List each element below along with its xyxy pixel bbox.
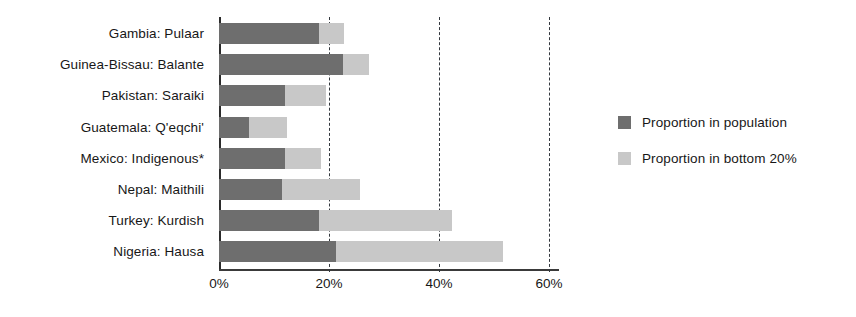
stacked-bar — [219, 179, 360, 200]
legend-label: Proportion in bottom 20% — [642, 151, 797, 166]
stacked-bar — [219, 148, 321, 169]
bar-segment-bottom20 — [343, 54, 369, 75]
x-tick-label: 40% — [425, 276, 452, 291]
x-tick-label: 20% — [315, 276, 342, 291]
bar-segment-population — [219, 23, 319, 44]
bar-segment-population — [219, 241, 336, 262]
stacked-bar — [219, 210, 452, 231]
bar-segment-population — [219, 85, 285, 106]
bar-segment-bottom20 — [336, 241, 503, 262]
chart-legend: Proportion in populationProportion in bo… — [618, 104, 848, 176]
stacked-bar-chart: Gambia: PulaarGuinea-Bissau: BalantePaki… — [0, 0, 856, 317]
bar-segment-population — [219, 148, 285, 169]
y-axis-label: Gambia: Pulaar — [109, 18, 204, 49]
bar-segment-bottom20 — [285, 148, 321, 169]
legend-swatch-icon — [618, 152, 631, 165]
legend-label: Proportion in population — [642, 115, 787, 130]
bar-segment-bottom20 — [285, 85, 326, 106]
bar-segment-bottom20 — [319, 210, 452, 231]
stacked-bar — [219, 54, 369, 75]
x-tick-label: 60% — [535, 276, 562, 291]
bar-segment-population — [219, 210, 319, 231]
y-axis-label: Guinea-Bissau: Balante — [60, 49, 204, 80]
bar-segment-population — [219, 54, 343, 75]
bar-series-group — [219, 18, 599, 268]
y-axis-category-labels: Gambia: PulaarGuinea-Bissau: BalantePaki… — [14, 18, 212, 268]
stacked-bar — [219, 85, 326, 106]
bar-segment-bottom20 — [249, 117, 288, 138]
stacked-bar — [219, 23, 344, 44]
y-axis-label: Guatemala: Q'eqchi' — [81, 112, 204, 143]
bar-segment-population — [219, 117, 249, 138]
x-axis-line — [219, 269, 559, 271]
legend-item: Proportion in bottom 20% — [618, 140, 848, 176]
plot-area: Gambia: PulaarGuinea-Bissau: BalantePaki… — [0, 0, 600, 317]
stacked-bar — [219, 117, 287, 138]
bar-segment-bottom20 — [319, 23, 344, 44]
legend-swatch-icon — [618, 116, 631, 129]
bar-segment-population — [219, 179, 282, 200]
y-axis-label: Mexico: Indigenous* — [81, 143, 204, 174]
legend-item: Proportion in population — [618, 104, 848, 140]
y-axis-label: Pakistan: Saraiki — [102, 80, 204, 111]
bar-segment-bottom20 — [282, 179, 361, 200]
y-axis-label: Nepal: Maithili — [118, 174, 204, 205]
stacked-bar — [219, 241, 503, 262]
y-axis-label: Nigeria: Hausa — [113, 236, 204, 267]
x-tick-label: 0% — [209, 276, 229, 291]
y-axis-label: Turkey: Kurdish — [108, 205, 204, 236]
